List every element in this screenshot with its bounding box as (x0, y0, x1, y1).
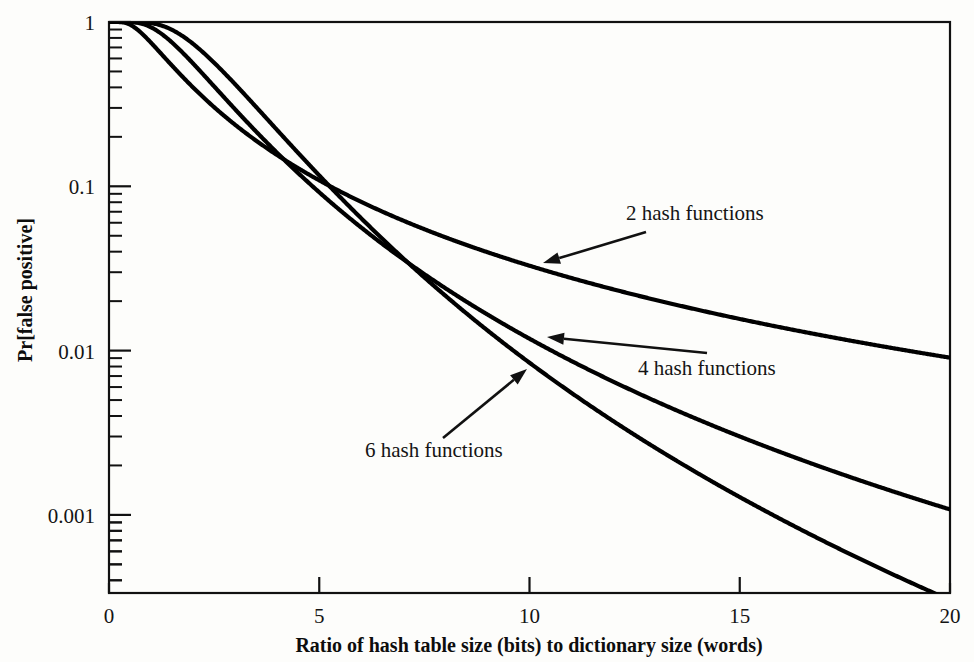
annotation-arrow-shaft (443, 380, 514, 438)
y-axis-ticks (109, 22, 131, 580)
y-tick-label: 0.001 (48, 504, 95, 528)
annotation-arrow-shaft (564, 339, 707, 353)
annotation-arrow-shaft (559, 232, 646, 258)
bloom-filter-chart: 10.10.010.001 05101520 2 hash functions4… (0, 0, 974, 662)
annotation-labels: 2 hash functions4 hash functions6 hash f… (365, 201, 776, 462)
annotation-arrow-head (547, 333, 565, 345)
x-tick-label: 10 (519, 604, 540, 628)
y-axis-title: Pr[false positive] (14, 218, 37, 362)
annotation-label-2: 4 hash functions (638, 356, 776, 380)
x-axis-tick-labels: 05101520 (104, 604, 961, 628)
annotation-label-3: 6 hash functions (365, 438, 503, 462)
y-tick-label: 0.01 (58, 340, 95, 364)
y-tick-label: 0.1 (69, 175, 95, 199)
annotation-arrow-head (543, 252, 561, 263)
x-tick-label: 20 (940, 604, 961, 628)
x-tick-label: 5 (314, 604, 325, 628)
data-curves (109, 22, 950, 600)
x-axis-ticks (109, 577, 950, 593)
x-axis-title: Ratio of hash table size (bits) to dicti… (295, 634, 762, 657)
y-tick-label: 1 (85, 11, 96, 35)
x-tick-label: 0 (104, 604, 115, 628)
curve-2-hash (109, 22, 950, 358)
x-tick-label: 15 (729, 604, 750, 628)
y-axis-tick-labels: 10.10.010.001 (48, 11, 95, 528)
chart-page: 10.10.010.001 05101520 2 hash functions4… (0, 0, 974, 662)
annotation-label-1: 2 hash functions (626, 201, 764, 225)
